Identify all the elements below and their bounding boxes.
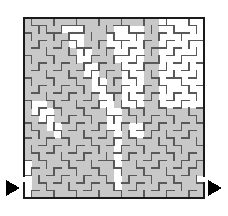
maze-shaded-cell	[84, 26, 92, 34]
maze-shaded-cell	[152, 183, 160, 191]
maze-shaded-cell	[24, 101, 32, 109]
maze-shaded-cell	[182, 183, 190, 191]
maze-shaded-cell	[54, 86, 62, 94]
maze-shaded-cell	[84, 123, 92, 131]
maze-shaded-cell	[189, 168, 197, 176]
maze-shaded-cell	[152, 123, 160, 131]
maze-shaded-cell	[24, 93, 32, 101]
maze-shaded-cell	[69, 101, 77, 109]
maze-shaded-cell	[69, 78, 77, 86]
maze-shaded-cell	[54, 41, 62, 49]
maze-shaded-cell	[159, 146, 167, 154]
maze-shaded-cell	[62, 86, 70, 94]
maze-shaded-cell	[24, 146, 32, 154]
maze-shaded-cell	[99, 33, 107, 41]
maze-shaded-cell	[32, 26, 40, 34]
maze-shaded-cell	[69, 138, 77, 146]
maze-shaded-cell	[167, 116, 175, 124]
maze-shaded-cell	[54, 48, 62, 56]
maze-shaded-cell	[39, 146, 47, 154]
maze-shaded-cell	[174, 176, 182, 184]
maze-shaded-cell	[69, 116, 77, 124]
maze-shaded-cell	[174, 183, 182, 191]
maze-shaded-cell	[129, 146, 137, 154]
maze-shaded-cell	[47, 71, 55, 79]
maze-shaded-cell	[47, 18, 55, 26]
maze-shaded-cell	[189, 123, 197, 131]
maze-shaded-cell	[84, 153, 92, 161]
maze-shaded-cell	[144, 93, 152, 101]
maze-shaded-cell	[167, 131, 175, 139]
maze-shaded-cell	[92, 176, 100, 184]
maze-shaded-cell	[167, 183, 175, 191]
maze-shaded-cell	[174, 191, 182, 199]
maze-shaded-cell	[92, 153, 100, 161]
maze-shaded-cell	[159, 191, 167, 199]
maze-shaded-cell	[129, 161, 137, 169]
maze-shaded-cell	[189, 116, 197, 124]
maze-shaded-cell	[62, 146, 70, 154]
maze-shaded-cell	[137, 161, 145, 169]
maze-shaded-cell	[129, 18, 137, 26]
maze-shaded-cell	[144, 101, 152, 109]
maze-shaded-cell	[182, 108, 190, 116]
maze-shaded-cell	[47, 153, 55, 161]
maze-shaded-cell	[39, 93, 47, 101]
maze-shaded-cell	[24, 138, 32, 146]
maze-shaded-cell	[47, 48, 55, 56]
maze-shaded-cell	[32, 86, 40, 94]
maze-shaded-cell	[54, 101, 62, 109]
maze-shaded-cell	[69, 146, 77, 154]
maze-shaded-cell	[47, 168, 55, 176]
maze-shaded-cell	[144, 183, 152, 191]
maze-shaded-cell	[47, 101, 55, 109]
maze-shaded-cell	[62, 48, 70, 56]
maze-shaded-cell	[84, 183, 92, 191]
maze-shaded-cell	[62, 176, 70, 184]
maze-shaded-cell	[62, 108, 70, 116]
maze-shaded-cell	[182, 161, 190, 169]
maze-shaded-cell	[144, 116, 152, 124]
maze-shaded-cell	[54, 191, 62, 199]
maze-shaded-cell	[77, 93, 85, 101]
maze-shaded-cell	[92, 131, 100, 139]
maze-shaded-cell	[92, 168, 100, 176]
maze-shaded-cell	[54, 116, 62, 124]
maze-shaded-cell	[24, 26, 32, 34]
maze-figure	[0, 0, 228, 216]
maze-shaded-cell	[54, 176, 62, 184]
maze-shaded-cell	[24, 131, 32, 139]
maze-shaded-cell	[62, 131, 70, 139]
maze-shaded-cell	[114, 93, 122, 101]
maze-shaded-cell	[107, 131, 115, 139]
maze-shaded-cell	[182, 153, 190, 161]
maze-shaded-cell	[24, 18, 32, 26]
maze-shaded-cell	[84, 86, 92, 94]
maze-shaded-cell	[107, 63, 115, 71]
maze-shaded-cell	[92, 146, 100, 154]
maze-shaded-cell	[152, 131, 160, 139]
maze-shaded-cell	[62, 116, 70, 124]
maze-shaded-cell	[84, 33, 92, 41]
maze-shaded-cell	[69, 131, 77, 139]
maze-shaded-cell	[189, 183, 197, 191]
maze-shaded-cell	[152, 176, 160, 184]
maze-shaded-cell	[47, 78, 55, 86]
maze-shaded-cell	[152, 41, 160, 49]
maze-shaded-cell	[152, 26, 160, 34]
maze-shaded-cell	[84, 191, 92, 199]
maze-shaded-cell	[32, 176, 40, 184]
maze-shaded-cell	[152, 48, 160, 56]
maze-shaded-cell	[24, 48, 32, 56]
maze-shaded-cell	[197, 146, 205, 154]
maze-shaded-cell	[152, 146, 160, 154]
maze-shaded-cell	[39, 153, 47, 161]
maze-shaded-cell	[39, 18, 47, 26]
maze-shaded-cell	[84, 176, 92, 184]
maze-shaded-cell	[77, 153, 85, 161]
maze-shaded-cell	[69, 18, 77, 26]
maze-shaded-cell	[32, 33, 40, 41]
maze-shaded-cell	[39, 176, 47, 184]
maze-shaded-cell	[167, 161, 175, 169]
maze-shaded-cell	[39, 48, 47, 56]
